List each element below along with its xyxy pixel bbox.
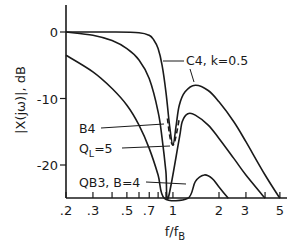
ytick-label-minus10: -10 [37, 92, 58, 107]
xtick-label-5: 5 [276, 203, 284, 218]
xtick-label-2: 2 [215, 203, 223, 218]
xtick-label-0.5: .5 [121, 203, 133, 218]
frequency-response-chart: 0 -10 -20 .2 .3 .5 .7 1 2 3 5 |X(jω)|, d… [0, 0, 302, 245]
xtick-label-3: 3 [241, 203, 249, 218]
ytick-label-minus20: -20 [37, 158, 58, 173]
x-axis-label: f/fB [165, 224, 186, 242]
annotation-b4: B4 [79, 121, 96, 136]
y-axis-label: |X(jω)|, dB [13, 66, 28, 134]
leader-b4 [101, 124, 164, 128]
annotation-qb3: QB3, B=4 [79, 175, 140, 190]
xtick-label-0.2: .2 [60, 203, 72, 218]
xtick-label-0.7: .7 [143, 203, 155, 218]
xtick-label-1: 1 [169, 203, 177, 218]
annotation-ql: QL=5 [79, 141, 113, 159]
xtick-label-0.3: .3 [87, 203, 99, 218]
ytick-label-0: 0 [50, 25, 58, 40]
annotation-c4: C4, k=0.5 [186, 53, 248, 68]
